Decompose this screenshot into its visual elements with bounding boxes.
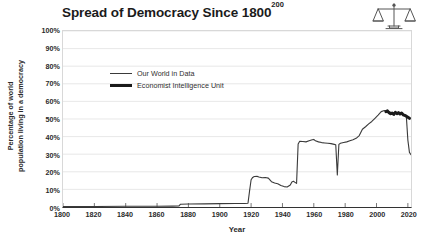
legend-swatch-icon <box>110 73 132 74</box>
chart-figure: Spread of Democracy Since 1800200 Percen… <box>0 0 422 247</box>
y-tick-label: 30% <box>30 150 60 159</box>
x-tick-label: 2000 <box>369 210 385 219</box>
y-tick-label: 80% <box>30 61 60 70</box>
chart-title-block: Spread of Democracy Since 1800200 <box>62 1 362 23</box>
y-tick-label: 20% <box>30 168 60 177</box>
x-tick-label: 1840 <box>117 210 133 219</box>
y-tick-label: 100% <box>30 26 60 35</box>
y-tick-label: 90% <box>30 43 60 52</box>
page-title: Spread of Democracy Since 1800200 <box>62 3 284 21</box>
legend-swatch-icon <box>110 84 132 87</box>
y-tick-label: 50% <box>30 115 60 124</box>
y-axis-ticks: 0%10%20%30%40%50%60%70%80%90%100% <box>26 30 60 208</box>
y-axis-label: Percentage of world population living in… <box>6 60 25 172</box>
x-tick-label: 1960 <box>306 210 322 219</box>
x-tick-label: 2020 <box>401 210 417 219</box>
data-series-group <box>63 111 411 207</box>
x-axis-ticks: 1800182018401860188019001920194019601980… <box>62 210 412 222</box>
x-tick-label: 1820 <box>86 210 102 219</box>
y-tick-label: 60% <box>30 97 60 106</box>
legend-item-label: Economist Intelligence Unit <box>137 81 224 90</box>
x-tick-label: 1880 <box>180 210 196 219</box>
y-tick-label: 40% <box>30 132 60 141</box>
y-axis-label-wrapper: Percentage of world population living in… <box>4 26 26 206</box>
x-tick-label: 1920 <box>243 210 259 219</box>
y-axis-label-line2: population living in a democracy <box>15 60 25 172</box>
legend-item: Our World in Data <box>110 68 260 79</box>
x-axis-label: Year <box>62 225 412 234</box>
legend-item-label: Our World in Data <box>137 69 194 78</box>
series-line-2 <box>386 111 410 118</box>
x-tick-label: 1980 <box>338 210 354 219</box>
x-tick-label: 1900 <box>212 210 228 219</box>
plot-area <box>62 30 412 208</box>
y-tick-label: 70% <box>30 79 60 88</box>
series-line-1 <box>63 111 411 207</box>
x-tick-label: 1860 <box>149 210 165 219</box>
y-axis-label-line1: Percentage of world <box>6 60 16 172</box>
balance-scales-icon <box>372 1 416 31</box>
chart-legend: Our World in DataEconomist Intelligence … <box>110 68 260 92</box>
x-tick-label: 1940 <box>275 210 291 219</box>
y-tick-label: 10% <box>30 186 60 195</box>
gridlines <box>63 31 411 189</box>
x-tick-label: 1800 <box>54 210 70 219</box>
chart-title-superscript: 200 <box>271 0 284 9</box>
legend-item: Economist Intelligence Unit <box>110 80 260 91</box>
plot-svg <box>63 31 411 207</box>
chart-title-text: Spread of Democracy Since 1800 <box>62 5 271 20</box>
